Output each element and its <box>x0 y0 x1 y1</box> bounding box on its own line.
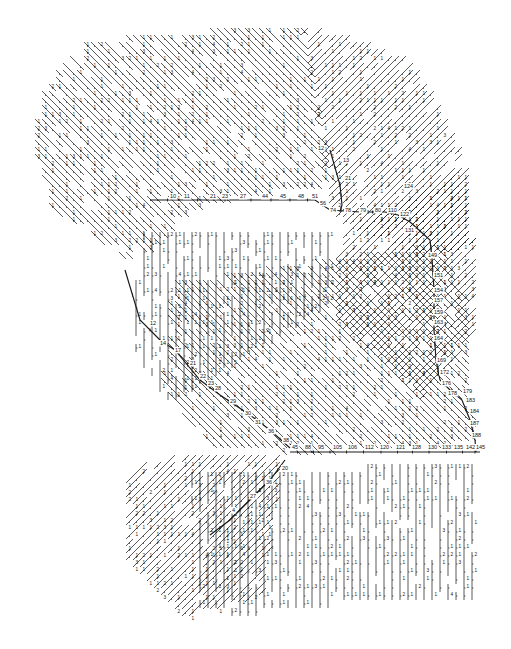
svg-text:1: 1 <box>323 552 326 557</box>
svg-text:1: 1 <box>395 336 398 341</box>
svg-text:1: 1 <box>163 384 166 389</box>
svg-text:1: 1 <box>143 147 146 152</box>
svg-text:1: 1 <box>129 231 132 236</box>
svg-text:1: 1 <box>129 98 132 103</box>
accumulation-value: 38 <box>283 437 289 443</box>
svg-text:2: 2 <box>213 161 216 166</box>
svg-text:1: 1 <box>136 532 139 537</box>
svg-text:2: 2 <box>38 126 41 131</box>
svg-text:3: 3 <box>234 343 237 348</box>
svg-text:1: 1 <box>234 336 237 341</box>
svg-text:3: 3 <box>227 168 230 173</box>
accumulation-value: 36 <box>268 428 274 434</box>
svg-text:1: 1 <box>164 84 167 89</box>
svg-text:1: 1 <box>332 357 335 362</box>
accumulation-value: 164 <box>434 335 443 341</box>
svg-text:1: 1 <box>178 133 181 138</box>
svg-text:1: 1 <box>267 552 270 557</box>
svg-text:2: 2 <box>297 112 300 117</box>
svg-text:1: 1 <box>467 584 470 589</box>
svg-text:1: 1 <box>192 98 195 103</box>
svg-text:1: 1 <box>311 119 314 124</box>
svg-text:1: 1 <box>262 175 265 180</box>
svg-text:1: 1 <box>451 496 454 501</box>
svg-text:2: 2 <box>220 84 223 89</box>
accumulation-value: 22 <box>200 373 206 379</box>
svg-text:1: 1 <box>108 196 111 201</box>
svg-text:3: 3 <box>444 133 447 138</box>
svg-text:1: 1 <box>108 217 111 222</box>
svg-text:1: 1 <box>332 406 335 411</box>
svg-text:1: 1 <box>331 232 334 237</box>
svg-text:1: 1 <box>178 203 181 208</box>
svg-text:2: 2 <box>467 464 470 469</box>
lower-main-trunk <box>290 451 480 454</box>
svg-text:1: 1 <box>355 560 358 565</box>
svg-text:1: 1 <box>387 488 390 493</box>
svg-text:4: 4 <box>179 272 182 277</box>
svg-text:1: 1 <box>360 196 363 201</box>
svg-text:1: 1 <box>101 77 104 82</box>
svg-text:1: 1 <box>219 480 222 485</box>
svg-text:2: 2 <box>241 133 244 138</box>
accumulation-value: 183 <box>466 397 475 403</box>
svg-text:1: 1 <box>318 280 321 285</box>
accumulation-value: 149 <box>428 252 437 258</box>
svg-text:1: 1 <box>387 520 390 525</box>
svg-text:1: 1 <box>143 133 146 138</box>
svg-text:1: 1 <box>234 322 237 327</box>
svg-text:1: 1 <box>164 56 167 61</box>
svg-text:3: 3 <box>213 77 216 82</box>
svg-text:1: 1 <box>143 119 146 124</box>
svg-text:2: 2 <box>276 147 279 152</box>
svg-text:3: 3 <box>227 413 230 418</box>
svg-text:3: 3 <box>458 266 461 271</box>
svg-text:2: 2 <box>299 584 302 589</box>
svg-text:1: 1 <box>339 357 342 362</box>
svg-text:4: 4 <box>213 42 216 47</box>
svg-text:1: 1 <box>234 280 237 285</box>
svg-text:1: 1 <box>248 49 251 54</box>
svg-text:1: 1 <box>353 231 356 236</box>
svg-text:1: 1 <box>115 210 118 215</box>
svg-text:1: 1 <box>227 552 230 557</box>
svg-text:3: 3 <box>283 133 286 138</box>
svg-text:1: 1 <box>234 273 237 278</box>
svg-text:1: 1 <box>192 616 195 621</box>
svg-text:1: 1 <box>243 472 246 477</box>
svg-text:1: 1 <box>248 35 251 40</box>
svg-text:1: 1 <box>443 560 446 565</box>
svg-text:1: 1 <box>458 420 461 425</box>
svg-text:1: 1 <box>269 357 272 362</box>
svg-text:2: 2 <box>122 126 125 131</box>
svg-text:2: 2 <box>235 560 238 565</box>
svg-text:1: 1 <box>101 133 104 138</box>
svg-text:1: 1 <box>269 182 272 187</box>
svg-text:1: 1 <box>178 322 181 327</box>
svg-text:1: 1 <box>269 28 272 33</box>
svg-text:2: 2 <box>311 266 314 271</box>
accumulation-value: 45 <box>292 444 298 450</box>
svg-text:1: 1 <box>459 552 462 557</box>
svg-text:3: 3 <box>267 496 270 501</box>
svg-text:2: 2 <box>129 238 132 243</box>
svg-text:2: 2 <box>318 294 321 299</box>
svg-text:1: 1 <box>379 544 382 549</box>
svg-text:1: 1 <box>347 592 350 597</box>
svg-text:1: 1 <box>157 140 160 145</box>
svg-text:2: 2 <box>419 584 422 589</box>
svg-text:1: 1 <box>339 371 342 376</box>
accumulation-value: 172 <box>440 369 449 375</box>
svg-text:1: 1 <box>299 560 302 565</box>
svg-text:2: 2 <box>87 56 90 61</box>
svg-text:1: 1 <box>241 294 244 299</box>
svg-text:2: 2 <box>52 84 55 89</box>
accumulation-value: 187 <box>470 420 479 426</box>
svg-text:1: 1 <box>219 584 222 589</box>
flow-lines-layer: 1221311311212111131121111121211311111111… <box>35 28 478 621</box>
svg-text:2: 2 <box>297 322 300 327</box>
svg-text:4: 4 <box>192 70 195 75</box>
svg-text:1: 1 <box>227 536 230 541</box>
svg-text:1: 1 <box>164 126 167 131</box>
svg-text:1: 1 <box>248 385 251 390</box>
